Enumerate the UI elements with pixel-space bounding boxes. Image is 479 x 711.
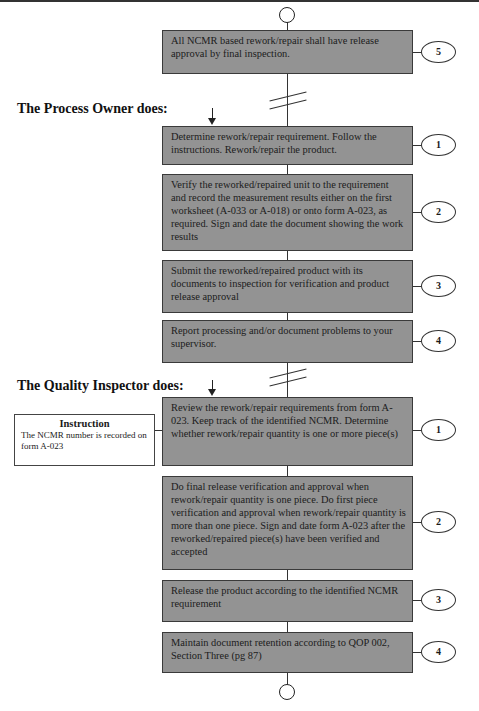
step-number-oval: 2 xyxy=(421,201,456,223)
step-text: Do final release verification and approv… xyxy=(171,481,406,557)
step-number-oval: 1 xyxy=(421,134,456,156)
section-heading-process-owner: The Process Owner does: xyxy=(17,101,168,117)
step-text: Verify the reworked/repaired unit to the… xyxy=(171,179,403,242)
step-text: Determine rework/repair requirement. Fol… xyxy=(171,131,377,155)
step-number-oval: 5 xyxy=(421,41,456,63)
arrow-down-icon xyxy=(208,389,216,396)
step-number-oval: 4 xyxy=(421,641,456,663)
intro-step-box: All NCMR based rework/repair shall have … xyxy=(162,30,413,74)
intro-step-text: All NCMR based rework/repair shall have … xyxy=(171,35,379,59)
quality-inspector-step-4: Maintain document retention according to… xyxy=(162,632,413,673)
instruction-note-text: The NCMR number is recorded on form A-02… xyxy=(21,430,148,451)
flow-break-mark xyxy=(269,99,306,109)
process-owner-step-3: Submit the reworked/repaired product wit… xyxy=(162,260,413,313)
instruction-note: Instruction The NCMR number is recorded … xyxy=(14,414,155,466)
quality-inspector-step-1: Review the rework/repair requirements fr… xyxy=(162,397,413,466)
step-text: Maintain document retention according to… xyxy=(171,637,390,661)
step-number-oval: 3 xyxy=(421,589,456,611)
section-heading-quality-inspector: The Quality Inspector does: xyxy=(17,378,184,394)
step-text: Review the rework/repair requirements fr… xyxy=(171,402,398,439)
step-number-oval: 1 xyxy=(421,419,456,441)
quality-inspector-step-3: Release the product according to the ide… xyxy=(162,580,413,622)
step-text: Submit the reworked/repaired product wit… xyxy=(171,265,389,302)
step-number-oval: 3 xyxy=(421,275,456,297)
process-owner-step-1: Determine rework/repair requirement. Fol… xyxy=(162,126,413,165)
quality-inspector-step-2: Do final release verification and approv… xyxy=(162,476,413,570)
process-owner-step-4: Report processing and/or document proble… xyxy=(162,320,413,363)
end-terminal-icon xyxy=(279,684,295,700)
start-terminal-icon xyxy=(279,7,295,23)
instruction-note-title: Instruction xyxy=(21,418,148,430)
note-connector xyxy=(155,430,162,431)
flow-break-mark xyxy=(269,376,306,386)
step-number-oval: 2 xyxy=(421,511,456,533)
page-top-rule xyxy=(0,0,479,2)
arrow-down-icon xyxy=(208,118,216,125)
process-owner-step-2: Verify the reworked/repaired unit to the… xyxy=(162,174,413,251)
step-text: Release the product according to the ide… xyxy=(171,585,398,609)
step-text: Report processing and/or document proble… xyxy=(171,325,393,349)
step-number-oval: 4 xyxy=(421,330,456,352)
